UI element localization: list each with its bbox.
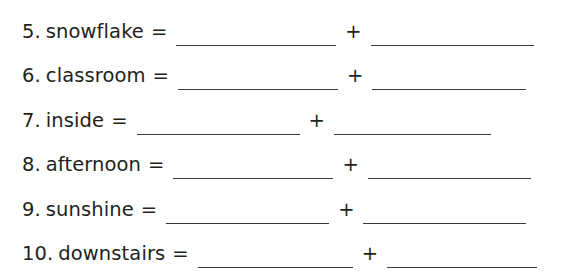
problem-row: 8. afternoon = + [0, 143, 569, 187]
problem-row: 6. classroom = + [0, 54, 569, 98]
answer-blank-first[interactable] [176, 30, 336, 46]
problem-number: 6. [22, 66, 41, 86]
problem-number: 9. [22, 200, 41, 220]
answer-blank-first[interactable] [198, 252, 353, 268]
answer-blank-first[interactable] [166, 208, 329, 224]
answer-blank-second[interactable] [363, 208, 526, 224]
compound-word-label: sunshine [46, 200, 134, 220]
problem-number: 10. [22, 244, 53, 264]
equals-sign: = [111, 111, 127, 131]
plus-sign: + [338, 200, 354, 220]
answer-blank-second[interactable] [387, 252, 537, 268]
plus-sign: + [362, 244, 378, 264]
answer-blank-second[interactable] [371, 30, 534, 46]
answer-blank-second[interactable] [334, 119, 491, 135]
compound-word-label: afternoon [46, 155, 141, 175]
plus-sign: + [342, 155, 358, 175]
plus-sign: + [345, 22, 361, 42]
equals-sign: = [148, 155, 164, 175]
compound-word-label: classroom [46, 66, 146, 86]
equals-sign: = [172, 244, 188, 264]
problem-number: 8. [22, 155, 41, 175]
equals-sign: = [151, 22, 167, 42]
problem-row: 10. downstairs = + [0, 232, 569, 276]
problem-number: 7. [22, 111, 41, 131]
compound-word-label: snowflake [46, 22, 144, 42]
answer-blank-second[interactable] [368, 163, 531, 179]
equals-sign: = [141, 200, 157, 220]
compound-word-label: downstairs [58, 244, 165, 264]
compound-word-label: inside [46, 111, 104, 131]
problem-number: 5. [22, 22, 41, 42]
answer-blank-first[interactable] [178, 74, 338, 90]
plus-sign: + [347, 66, 363, 86]
answer-blank-first[interactable] [137, 119, 300, 135]
answer-blank-second[interactable] [372, 74, 526, 90]
problem-row: 9. sunshine = + [0, 188, 569, 232]
plus-sign: + [309, 111, 325, 131]
equals-sign: = [153, 66, 169, 86]
problem-row: 7. inside = + [0, 99, 569, 143]
worksheet-page: 5. snowflake = + 6. classroom = + 7. ins… [0, 0, 569, 280]
answer-blank-first[interactable] [173, 163, 333, 179]
problem-row: 5. snowflake = + [0, 10, 569, 54]
